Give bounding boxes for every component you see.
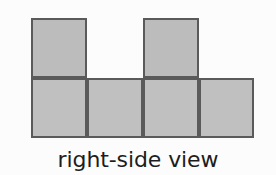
cell-bottom-col2 <box>87 78 143 138</box>
cell-top-col3 <box>143 18 199 78</box>
cell-top-col1 <box>31 18 87 78</box>
shape-diagram <box>0 0 276 145</box>
figure-root: right-side view <box>0 0 276 175</box>
figure-caption: right-side view <box>0 145 276 175</box>
cell-bottom-col3 <box>143 78 199 138</box>
cell-bottom-col4 <box>199 78 254 138</box>
cell-bottom-col1 <box>31 78 87 138</box>
